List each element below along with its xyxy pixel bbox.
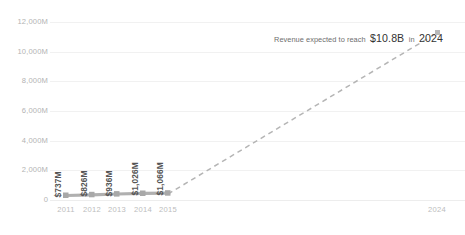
projection-endpoint-marker[interactable]	[435, 30, 440, 35]
annotation-value-text: $10.8B	[370, 32, 404, 44]
x-tick-label-2015: 2015	[159, 206, 177, 214]
data-point-marker-2012[interactable]	[89, 192, 95, 198]
projection-line	[168, 33, 437, 194]
x-axis: 2011 2012 2013 2014 2015 2024	[0, 206, 465, 222]
data-point-label-2015: $1,066M	[156, 162, 164, 195]
annotation-prefix-text: Revenue expected to reach	[274, 35, 366, 44]
data-point-marker-2013[interactable]	[114, 191, 120, 197]
data-point-marker-2011[interactable]	[63, 193, 69, 199]
data-point-marker-2015[interactable]	[165, 190, 171, 196]
data-point-label-2013: $936M	[105, 170, 113, 196]
x-tick-label-2014: 2014	[134, 206, 152, 214]
data-point-marker-2014[interactable]	[140, 191, 146, 197]
x-tick-label-2011: 2011	[57, 206, 75, 214]
x-tick-label-2013: 2013	[108, 206, 126, 214]
x-tick-label-2012: 2012	[83, 206, 101, 214]
x-tick-label-2024: 2024	[428, 206, 446, 214]
annotation-suffix-text: in	[409, 35, 415, 44]
data-point-label-2011: $737M	[54, 171, 62, 197]
data-point-label-2012: $826M	[80, 170, 88, 196]
data-point-label-2014: $1,026M	[131, 162, 139, 195]
projection-annotation: Revenue expected to reach $10.8B in 2024	[274, 29, 443, 45]
revenue-projection-chart: 12,000M 10,000M 8,000M 6,000M 4,000M 2,0…	[0, 0, 465, 235]
